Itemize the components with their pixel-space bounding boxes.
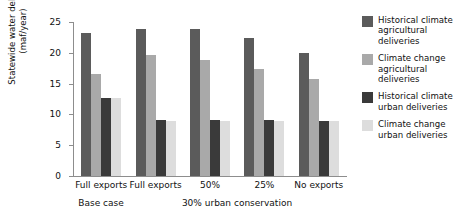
bar <box>274 121 284 176</box>
y-tick-label: 5 <box>55 140 61 150</box>
legend-label-line: Historical climate <box>378 91 453 101</box>
bar <box>190 29 200 176</box>
legend-item: Historical climateagriculturaldeliveries <box>362 15 470 46</box>
bar-group <box>292 22 346 176</box>
bar <box>156 120 166 176</box>
legend-label: Historical climateagriculturaldeliveries <box>378 15 453 46</box>
y-axis-title-line1: Statewide water delivery <box>7 0 18 111</box>
category-label: No exports <box>292 180 346 190</box>
bar-chart-figure: Statewide water delivery (maf/year) 0510… <box>0 0 472 223</box>
bar <box>319 121 329 176</box>
legend-label: Climate changeurban deliveries <box>378 119 447 140</box>
super-category-label-urban-conservation: 30% urban conservation <box>128 198 346 208</box>
legend-item: Climate changeagriculturaldeliveries <box>362 53 470 84</box>
super-category-label-base-case: Base case <box>74 198 128 208</box>
y-tick-label: 0 <box>55 171 61 181</box>
bar-set <box>244 22 284 176</box>
bar <box>81 33 91 176</box>
bar <box>146 55 156 176</box>
y-axis-title: Statewide water delivery (maf/year) <box>7 0 29 111</box>
legend-label-line: Climate change <box>378 53 445 63</box>
bar <box>101 98 111 176</box>
bar <box>254 69 264 176</box>
bar <box>329 121 339 176</box>
category-label: 50% <box>183 180 237 190</box>
legend-label-line: urban deliveries <box>378 130 447 140</box>
bar-group <box>183 22 237 176</box>
legend-label: Historical climateurban deliveries <box>378 91 453 112</box>
legend-swatch <box>362 120 373 131</box>
plot-area: 0510152025 <box>74 22 346 176</box>
category-label: Full exports <box>74 180 128 190</box>
legend-label: Climate changeagriculturaldeliveries <box>378 53 445 84</box>
bar-set <box>136 22 176 176</box>
bar-groups <box>74 22 346 176</box>
bar <box>264 120 274 176</box>
category-label: Full exports <box>128 180 182 190</box>
bar-group <box>74 22 128 176</box>
legend-label-line: Climate change <box>378 119 447 129</box>
legend-item: Historical climateurban deliveries <box>362 91 470 112</box>
chart-legend: Historical climateagriculturaldeliveries… <box>362 15 470 147</box>
bar <box>91 74 101 176</box>
y-tick-label: 10 <box>50 109 61 119</box>
y-tick-label: 25 <box>50 17 61 27</box>
legend-swatch <box>362 54 373 65</box>
legend-item: Climate changeurban deliveries <box>362 119 470 140</box>
legend-label-line: agricultural <box>378 25 453 35</box>
legend-label-line: deliveries <box>378 36 453 46</box>
bar-set <box>81 22 121 176</box>
legend-label-line: Historical climate <box>378 15 453 25</box>
bar <box>136 29 146 176</box>
bar <box>111 98 121 176</box>
legend-swatch <box>362 16 373 27</box>
bar-set <box>299 22 339 176</box>
y-axis-title-line2: (maf/year) <box>18 0 29 111</box>
bar <box>244 38 254 176</box>
bar <box>210 120 220 176</box>
y-tick: 0 <box>69 176 74 177</box>
bar-group <box>128 22 182 176</box>
bar-set <box>190 22 230 176</box>
legend-label-line: urban deliveries <box>378 102 453 112</box>
x-axis-line <box>73 176 347 177</box>
category-labels: Full exportsFull exports50%25%No exports <box>74 180 346 190</box>
category-label: 25% <box>237 180 291 190</box>
legend-label-line: deliveries <box>378 74 445 84</box>
y-tick-label: 15 <box>50 79 61 89</box>
bar-group <box>237 22 291 176</box>
bar <box>309 79 319 176</box>
bar <box>299 53 309 176</box>
legend-swatch <box>362 92 373 103</box>
bar <box>200 60 210 176</box>
bar <box>166 121 176 176</box>
bar <box>220 121 230 176</box>
y-tick-label: 20 <box>50 48 61 58</box>
legend-label-line: agricultural <box>378 64 445 74</box>
